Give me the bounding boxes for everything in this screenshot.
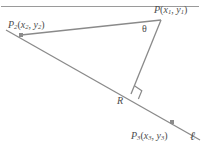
label-p2: P2(x2, y2) [8,20,45,31]
label-r: R [117,96,123,106]
right-angle-marker [134,86,141,99]
geometry-figure: g P(x1, y1) P2(x2, y2) P3(x3, y3) R θ ℓ [0,0,206,147]
vertex-marker-p2 [19,33,23,37]
vertex-marker-p3 [170,120,174,124]
label-p1: P(x1, y1) [154,5,187,16]
label-p3-close-paren: ) [164,130,167,141]
label-theta: θ [142,24,147,34]
label-p3: P3(x3, y3) [131,131,168,142]
label-line-ell: ℓ [190,130,195,142]
label-p2-close-paren: ) [41,19,44,30]
label-p1-close-paren: ) [184,4,187,15]
cropped-text-fragment: g [13,0,22,4]
